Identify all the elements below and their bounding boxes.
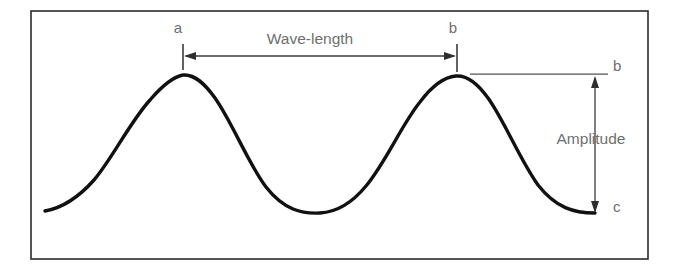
label-amplitude: Amplitude	[557, 130, 626, 147]
wave-curve	[45, 75, 595, 213]
label-peak-a: a	[174, 19, 183, 36]
wavelength-left-arrowhead	[184, 52, 196, 60]
amplitude-top-arrowhead	[591, 76, 599, 88]
wave-diagram: a b Wave-length b Amplitude c	[0, 0, 674, 269]
wave-diagram-svg: a b Wave-length b Amplitude c	[0, 0, 674, 269]
label-trough-c-right: c	[613, 198, 621, 215]
label-crest-b-right: b	[613, 57, 621, 74]
label-wavelength: Wave-length	[267, 30, 353, 47]
amplitude-bottom-arrowhead	[591, 201, 599, 213]
wavelength-right-arrowhead	[444, 52, 456, 60]
label-peak-b-top: b	[449, 19, 457, 36]
